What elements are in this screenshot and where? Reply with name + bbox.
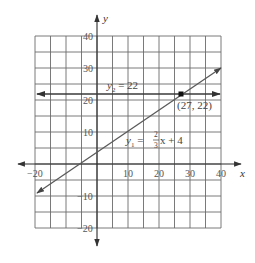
- y1-fraction-numerator: 2: [154, 130, 158, 139]
- y-tick-label: 40: [83, 31, 93, 42]
- y-tick-label: 20: [83, 95, 93, 106]
- y1-equation-tail: x + 4: [160, 134, 183, 146]
- grid: [35, 36, 221, 228]
- x-axis-label: x: [239, 167, 245, 179]
- x-tick-label: 20: [154, 168, 164, 179]
- y-tick-label: 30: [83, 63, 93, 74]
- x-tick-label: 30: [185, 168, 195, 179]
- graph-figure: x y −20 10 20 30 40 40 30 20 10 −10 −20 …: [0, 0, 255, 263]
- x-tick-label: −20: [27, 168, 43, 179]
- intersection-label: (27, 22): [177, 99, 212, 112]
- y-tick-label: −20: [77, 223, 93, 234]
- x-tick-label: 40: [216, 168, 226, 179]
- y-tick-label: −10: [77, 191, 93, 202]
- y1-fraction-denominator: 3: [154, 141, 158, 150]
- y-tick-label: 10: [83, 127, 93, 138]
- y-axis-label: y: [102, 12, 108, 24]
- intersection-point: [179, 92, 184, 97]
- y2-equation-label: y2 = 22: [106, 79, 138, 94]
- x-tick-label: 10: [123, 168, 133, 179]
